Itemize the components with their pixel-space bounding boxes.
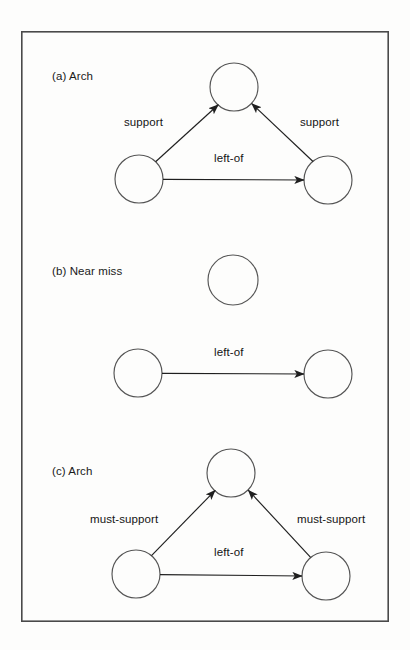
arch-near-miss-diagram [0,0,410,650]
panel-b-node-top [208,255,258,305]
panel-b-edge-label-left-of: left-of [214,346,243,358]
panel-a-edge-label-support-right: support [300,116,339,128]
panel-a-edge-support-left [156,105,219,162]
panel-c-caption: (c) Arch [52,465,92,477]
panel-a-node-top [210,63,258,111]
panel-a-graph [115,63,352,204]
panel-a-node-right [304,156,352,204]
panel-c-node-right [302,552,350,600]
panel-b-graph [114,255,352,398]
panel-c-edge-must-support-left [152,490,216,555]
panel-c-edge-left-of [160,575,302,576]
panel-b-edge-left-of [162,373,304,374]
panel-a-node-left [115,155,163,203]
panel-a-edge-left-of [163,179,304,180]
figure-container: (a) Arch (b) Near miss (c) Arch support … [0,0,410,650]
panel-c-node-top [207,449,255,497]
panel-a-caption: (a) Arch [52,70,93,82]
panel-c-edge-label-left-of: left-of [214,546,243,558]
panel-a-edge-label-left-of: left-of [214,152,243,164]
panel-c-edge-label-must-support-left: must-support [90,513,158,525]
panel-b-caption: (b) Near miss [52,265,122,277]
panel-a-edge-support-right [252,104,313,162]
panel-a-edge-label-support-left: support [124,116,163,128]
panel-b-node-right [304,350,352,398]
panel-c-edge-label-must-support-right: must-support [297,513,365,525]
panel-c-node-left [112,550,160,598]
panel-b-node-left [114,349,162,397]
